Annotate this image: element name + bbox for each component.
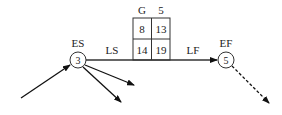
activity-box: G 5 8 13 14 19 [133,4,170,60]
start-node-label: ES [72,37,85,49]
lf-label: LF [187,44,200,56]
activity-name: G [138,4,146,16]
end-node-number: 5 [224,55,229,66]
start-node-number: 3 [76,55,81,66]
early-finish-value: 13 [156,23,168,35]
end-node: 5 EF [218,37,234,68]
early-start-value: 8 [139,23,145,35]
start-node: 3 ES [70,37,86,68]
dashed-outgoing-arrow [232,66,269,103]
activity-duration: 5 [158,4,164,16]
late-finish-value: 19 [156,44,168,56]
network-diagram: G 5 8 13 14 19 LS LF 3 ES 5 EF [0,0,282,115]
ls-label: LS [106,44,119,56]
late-start-value: 14 [137,44,149,56]
end-node-label: EF [220,37,233,49]
incoming-arrow [21,65,70,98]
